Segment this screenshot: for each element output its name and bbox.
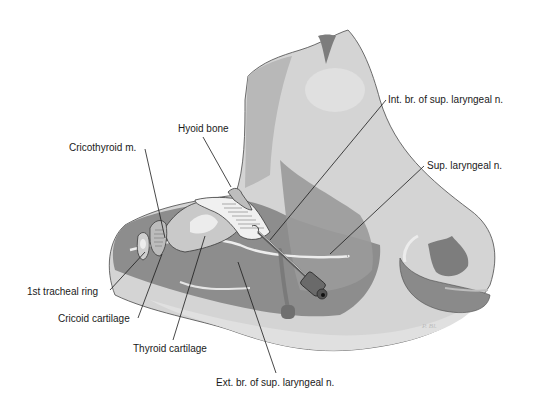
label-sup-laryngeal-n: Sup. laryngeal n.	[427, 160, 502, 172]
artist-signature: P. Bl.	[421, 322, 437, 330]
label-ext-br-sup-laryngeal-n: Ext. br. of sup. laryngeal n.	[216, 377, 334, 389]
label-thyroid-cartilage: Thyroid cartilage	[133, 343, 207, 355]
label-int-br-sup-laryngeal-n: Int. br. of sup. laryngeal n.	[388, 94, 503, 106]
label-cricoid-cartilage: Cricoid cartilage	[58, 313, 130, 325]
chin-highlight	[305, 68, 365, 112]
label-cricothyroid-m: Cricothyroid m.	[69, 142, 136, 154]
label-hyoid-bone: Hyoid bone	[178, 123, 229, 135]
label-1st-tracheal-ring: 1st tracheal ring	[27, 286, 98, 298]
nerve-branch-end	[281, 305, 295, 319]
tracheal-ring-highlight	[140, 239, 146, 249]
neck-larynx-drawing: P. Bl.	[0, 0, 536, 395]
leader-hyoid	[203, 137, 231, 187]
anatomical-illustration: P. Bl. Int. br. of sup. laryngeal n. Sup…	[0, 0, 536, 395]
